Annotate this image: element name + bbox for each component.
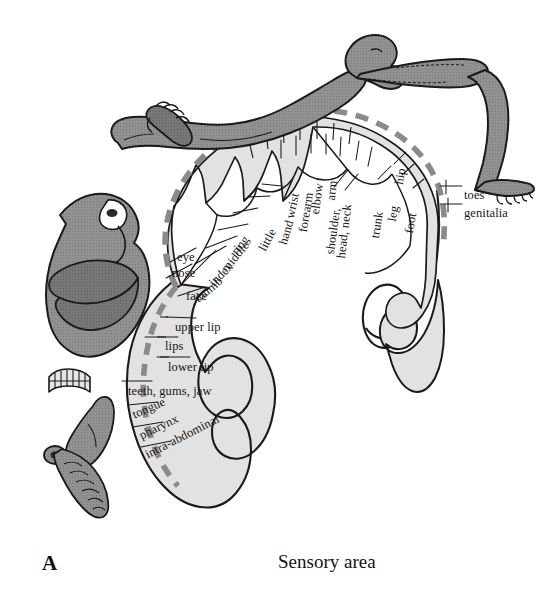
figure-caption: Sensory area (278, 551, 376, 573)
panel-letter: A (42, 551, 57, 576)
region-label-hip: hip (393, 167, 408, 185)
region-label-lips: lips (165, 340, 183, 353)
region-label-nose: nose (172, 267, 195, 280)
region-label-toes: toes (464, 189, 485, 202)
sensory-homunculus-figure (0, 0, 546, 597)
region-label-teeth-gums-jaw: teeth, gums, jaw (128, 385, 212, 398)
region-label-genitalia: genitalia (464, 207, 508, 220)
region-label-upper-lip: upper lip (175, 321, 221, 334)
region-label-arm: arm (325, 180, 339, 201)
region-label-lower-lip: lower lip (168, 361, 214, 374)
face-eye-pupil (107, 209, 118, 217)
region-label-eye: eye (177, 251, 195, 264)
region-label-face: face (186, 290, 207, 303)
region-label-leg: leg (386, 205, 401, 223)
